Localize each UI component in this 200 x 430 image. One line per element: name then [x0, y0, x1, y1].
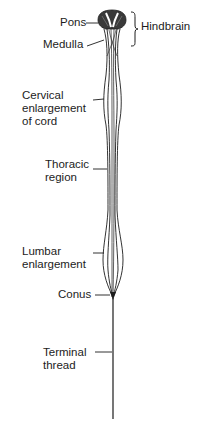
spinal-cord-diagram — [0, 0, 200, 430]
label-terminal-thread: Terminal thread — [43, 346, 86, 372]
spinal-cord — [103, 29, 123, 297]
label-medulla: Medulla — [43, 38, 83, 51]
label-cervical-enlargement: Cervical enlargement of cord — [22, 89, 86, 128]
label-thoracic-region: Thoracic region — [45, 158, 89, 184]
label-hindbrain: Hindbrain — [141, 20, 190, 33]
label-conus: Conus — [58, 288, 91, 301]
hindbrain-brace — [131, 12, 138, 46]
label-lumbar-enlargement: Lumbar enlargement — [22, 245, 86, 271]
label-pons: Pons — [60, 16, 86, 29]
pons-shape — [98, 10, 126, 29]
